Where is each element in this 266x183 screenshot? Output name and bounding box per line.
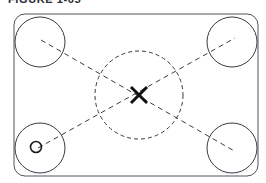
diagram-canvas xyxy=(0,0,266,183)
top-right-circle xyxy=(207,17,257,67)
bottom-left-circle xyxy=(15,123,65,173)
figure-container: FIGURE 1-65 xyxy=(0,0,266,183)
top-left-circle xyxy=(15,17,65,67)
bottom-right-circle xyxy=(207,123,257,173)
